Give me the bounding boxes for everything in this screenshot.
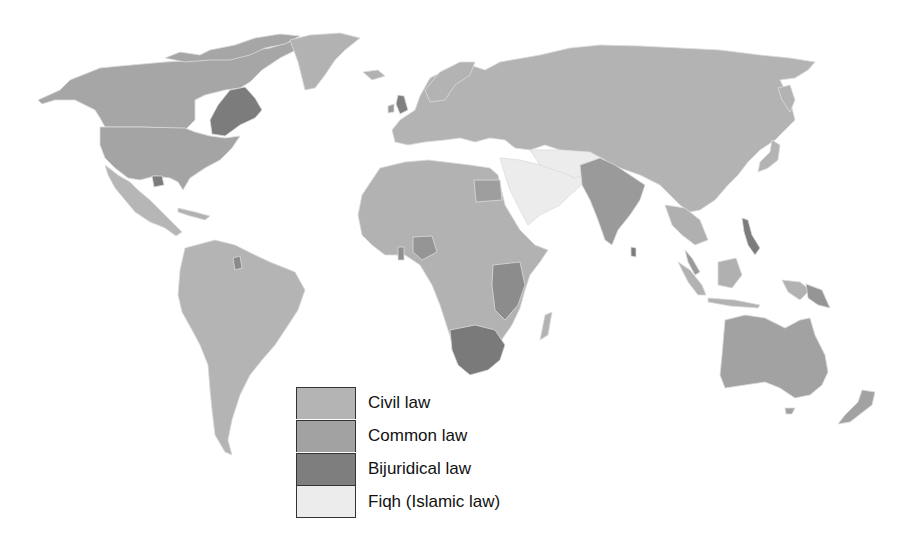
legend-item-bijuridical: Bijuridical law xyxy=(296,452,500,485)
legend-label: Common law xyxy=(368,426,467,446)
region-uk xyxy=(396,95,408,114)
legend-label: Civil law xyxy=(368,393,430,413)
region-ghana xyxy=(398,247,404,260)
region-egypt xyxy=(474,180,502,202)
region-caribbean xyxy=(178,208,210,220)
region-guyana xyxy=(233,256,242,270)
legend-item-fiqh: Fiqh (Islamic law) xyxy=(296,485,500,518)
region-sri-lanka xyxy=(631,247,636,257)
region-java xyxy=(708,298,760,308)
region-new-zealand xyxy=(838,390,875,424)
region-madagascar xyxy=(540,312,552,340)
legend-swatch-common xyxy=(296,420,356,452)
legend-swatch-civil xyxy=(296,387,356,419)
region-australia xyxy=(720,315,828,398)
region-quebec xyxy=(210,87,262,136)
region-png xyxy=(806,284,830,308)
region-greenland xyxy=(290,33,360,90)
legend-swatch-fiqh xyxy=(296,485,356,518)
region-ireland xyxy=(388,104,394,113)
legend-label: Fiqh (Islamic law) xyxy=(368,492,500,512)
region-new-guinea xyxy=(782,280,810,300)
region-east-africa xyxy=(492,262,525,320)
region-indochina xyxy=(665,205,708,245)
legend-item-civil: Civil law xyxy=(296,386,500,419)
region-canada-alaska xyxy=(38,40,300,130)
legend-swatch-bijuridical xyxy=(296,453,356,485)
region-louisiana xyxy=(152,176,164,187)
region-southern-africa xyxy=(450,325,505,375)
legend-item-common: Common law xyxy=(296,419,500,452)
map-legend: Civil law Common law Bijuridical law Fiq… xyxy=(296,386,500,518)
region-philippines xyxy=(742,218,760,255)
legend-label: Bijuridical law xyxy=(368,459,471,479)
region-tasmania xyxy=(785,408,795,414)
region-iceland xyxy=(363,70,385,80)
region-borneo xyxy=(718,258,742,288)
region-south-america xyxy=(178,240,305,455)
